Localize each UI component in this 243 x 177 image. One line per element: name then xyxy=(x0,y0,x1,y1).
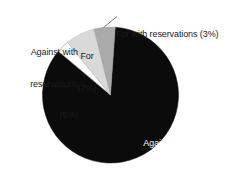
slice-label-against-line2: (85%) xyxy=(128,170,188,177)
slice-label-for-with-reservations: For with reservations (3%) xyxy=(116,8,218,61)
slice-label-against: Against (85%) xyxy=(128,117,188,176)
leader-line-for-with-reservations xyxy=(104,17,118,28)
slice-label-for-line1: For xyxy=(66,51,108,62)
slice-label-for: For (7%) xyxy=(66,30,108,114)
slice-label-for-with-reservations-line1: For with reservations (3%) xyxy=(116,29,218,40)
slice-label-against-line1: Against xyxy=(128,138,188,149)
pie-chart: For with reservations (3%) Against with … xyxy=(0,0,243,176)
slice-label-for-line2: (7%) xyxy=(66,83,108,94)
